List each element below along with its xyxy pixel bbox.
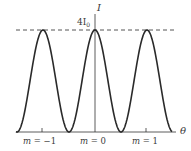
order-label-m-neg1: m = −1 — [23, 136, 56, 146]
svg-text:m = −1: m = −1 — [23, 136, 56, 146]
intensity-curve — [16, 30, 172, 132]
svg-text:m = 1: m = 1 — [132, 136, 158, 146]
x-axis-label: θ — [180, 125, 186, 136]
y-axis-label: I — [96, 2, 102, 13]
peak-label: 4I0 — [77, 17, 90, 28]
svg-text:m = 0: m = 0 — [80, 136, 106, 146]
interference-diagram: I 4I0 θ m = −1 m = 0 m = 1 — [0, 0, 191, 151]
svg-text:4I0: 4I0 — [77, 17, 90, 28]
order-label-m-1: m = 1 — [132, 136, 158, 146]
order-label-m-0: m = 0 — [80, 136, 106, 146]
